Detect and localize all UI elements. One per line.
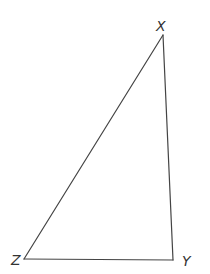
edge-zx bbox=[24, 35, 163, 259]
vertex-label-x: X bbox=[155, 18, 166, 34]
edge-yz bbox=[24, 259, 173, 260]
edge-xy bbox=[163, 35, 173, 260]
vertex-label-y: Y bbox=[182, 253, 192, 269]
triangle-diagram: X Z Y bbox=[0, 0, 210, 274]
vertex-label-z: Z bbox=[10, 252, 21, 268]
